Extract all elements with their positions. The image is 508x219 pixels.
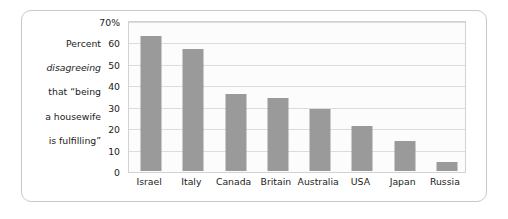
x-axis-tick-label: Russia: [430, 176, 460, 187]
x-axis-tick-label: Britain: [261, 176, 292, 187]
bar-slot: [215, 23, 257, 171]
chart-figure: Percent disagreeing that “being a housew…: [0, 0, 508, 219]
y-axis-tick-label: 50: [80, 59, 120, 70]
x-axis-tick-label: Canada: [216, 176, 251, 187]
bar-slot: [384, 23, 426, 171]
y-axis-tick-label: 40: [80, 81, 120, 92]
x-axis-tick-label: Italy: [181, 176, 201, 187]
bar-slot: [172, 23, 214, 171]
bar: [141, 36, 162, 171]
bar-slot: [341, 23, 383, 171]
x-axis-tick-label: Japan: [390, 176, 416, 187]
bar: [394, 141, 415, 171]
bar: [225, 94, 246, 171]
bar-slot: [257, 23, 299, 171]
bar-slot: [299, 23, 341, 171]
x-axis-tick-label: Australia: [298, 176, 339, 187]
y-axis-tick-label: 0: [80, 167, 120, 178]
x-axis-tick-label: USA: [351, 176, 370, 187]
y-axis-tick-label: 20: [80, 124, 120, 135]
y-axis-tick-label: 70%: [80, 17, 120, 28]
bar: [310, 109, 331, 171]
x-axis-tick-labels: IsraelItalyCanadaBritainAustraliaUSAJapa…: [128, 176, 466, 194]
bar: [352, 126, 373, 171]
y-axis-tick-label: 60: [80, 38, 120, 49]
y-axis-tick-labels: 010203040506070%: [0, 21, 124, 173]
x-axis-tick-label: Israel: [136, 176, 161, 187]
bar: [267, 98, 288, 171]
y-axis-tick-label: 10: [80, 145, 120, 156]
plot-area: [128, 21, 466, 173]
bar-series: [130, 23, 464, 171]
bar: [436, 162, 457, 171]
y-axis-tick-label: 30: [80, 102, 120, 113]
bar-slot: [426, 23, 468, 171]
plot-area-wrapper: [128, 21, 466, 173]
bar-slot: [130, 23, 172, 171]
bar: [183, 49, 204, 171]
